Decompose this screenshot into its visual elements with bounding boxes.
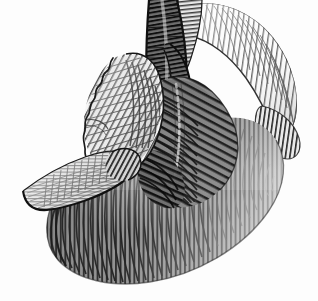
heart-engraving-canvas [0,0,318,301]
atrium-appendage-junction [105,149,141,181]
heart-illustration-figure: Anatomical illustration of the human hea… [0,0,318,301]
